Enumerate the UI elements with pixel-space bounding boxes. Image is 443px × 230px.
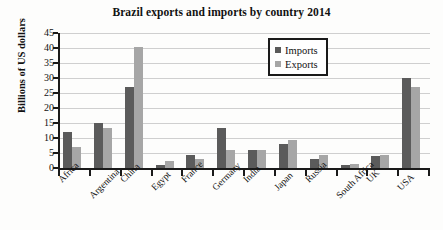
x-tick-label: USA xyxy=(396,172,417,193)
x-tick-label: Argentina xyxy=(87,167,121,201)
bar-group xyxy=(368,33,399,168)
bar-exports xyxy=(165,161,174,169)
bar-exports xyxy=(411,87,420,168)
legend-item-exports: Exports xyxy=(275,57,318,71)
plot-area xyxy=(58,33,430,170)
bar-exports xyxy=(288,140,297,169)
bar-group xyxy=(60,33,91,168)
legend-item-imports: Imports xyxy=(275,43,318,57)
bar-group xyxy=(183,33,214,168)
bar-group xyxy=(122,33,153,168)
bar-imports xyxy=(125,87,134,168)
legend-label-exports: Exports xyxy=(285,59,318,70)
bar-group xyxy=(338,33,369,168)
bar-imports xyxy=(279,144,288,168)
bar-imports xyxy=(94,123,103,168)
legend-swatch-imports xyxy=(275,47,281,53)
x-axis-tick-labels: AfricaArgentinaChinaEgyptFranceGermanyIn… xyxy=(0,172,443,230)
bar-imports xyxy=(341,165,350,168)
bar-exports xyxy=(134,47,143,169)
bar-group xyxy=(399,33,430,168)
bar-exports xyxy=(350,164,359,169)
bar-chart: Brazil exports and imports by country 20… xyxy=(0,0,443,230)
legend-label-imports: Imports xyxy=(285,45,318,56)
legend-swatch-exports xyxy=(275,61,281,67)
x-tick-label: Japan xyxy=(272,170,294,192)
bar-group xyxy=(91,33,122,168)
bar-exports xyxy=(380,155,389,169)
y-axis-tick-labels: 051015202530354045 xyxy=(30,33,54,168)
chart-title: Brazil exports and imports by country 20… xyxy=(0,6,443,18)
x-tick-label: Egypt xyxy=(149,169,172,192)
bar-imports xyxy=(156,165,165,168)
chart-legend: Imports Exports xyxy=(268,38,328,76)
y-axis-title: Billions of US dollars xyxy=(16,1,27,131)
bar-imports xyxy=(402,78,411,168)
bar-exports xyxy=(103,128,112,169)
bar-group xyxy=(214,33,245,168)
bar-imports xyxy=(217,128,226,169)
bar-group xyxy=(153,33,184,168)
